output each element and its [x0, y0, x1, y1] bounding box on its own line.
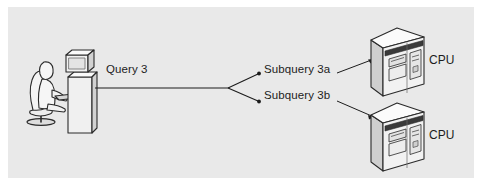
- edge-to-cpu-top: [337, 59, 374, 73]
- edge-label-query3: Query 3: [106, 64, 148, 76]
- edge-subquery-3a-line: [228, 74, 258, 88]
- cpu-tower-bottom: [371, 103, 424, 171]
- desktop-tower-icon: [68, 77, 92, 133]
- edge-to-cpu-top-line: [337, 59, 374, 73]
- desktop-tower-side: [92, 72, 97, 133]
- monitor-bezel-inner: [69, 58, 85, 69]
- person-head-icon: [40, 62, 54, 80]
- user-at-workstation: [27, 50, 97, 133]
- cpu-tower-bottom-control-column: [410, 125, 421, 155]
- edge-subquery-3b: [228, 88, 261, 103]
- edge-label-subquery-3a: Subquery 3a: [264, 64, 330, 76]
- cpu-tower-top-control-column: [410, 50, 421, 80]
- node-label-cpu-bottom: CPU: [429, 129, 455, 141]
- edge-subquery-3a: [228, 72, 261, 88]
- cpu-tower-bottom-side-face: [371, 115, 383, 171]
- cpu-tower-top-side-face: [371, 40, 383, 96]
- diagram-vector-layer: [0, 0, 484, 195]
- cpu-tower-top: [371, 28, 424, 96]
- edge-to-cpu-bottom: [337, 101, 374, 120]
- diagram-figure: Query 3 Subquery 3a Subquery 3b CPU CPU: [0, 0, 484, 195]
- edge-subquery-3b-arrowhead: [257, 100, 261, 104]
- person-legs-icon: [47, 104, 65, 112]
- edge-to-cpu-bottom-line: [337, 101, 374, 117]
- edge-label-subquery-3b: Subquery 3b: [264, 90, 330, 102]
- cpu-tower-bottom-power-button-icon: [413, 141, 418, 148]
- edge-subquery-3b-line: [228, 88, 258, 101]
- edge-subquery-3a-arrowhead: [257, 72, 261, 76]
- node-label-cpu-top: CPU: [429, 54, 455, 66]
- cpu-tower-top-power-button-icon: [413, 66, 418, 73]
